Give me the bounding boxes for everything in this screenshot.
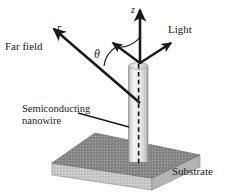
theta-angle-label: θ xyxy=(94,48,100,60)
semiconducting-nanowire-label: Semiconducting nanowire xyxy=(22,103,90,127)
r-vector-label: r xyxy=(57,21,61,33)
vector-group xyxy=(54,10,171,103)
substrate-label: Substrate xyxy=(172,165,213,177)
theta-angle-arc-tail xyxy=(104,47,116,66)
light-label: Light xyxy=(168,23,192,35)
far-field-r-vector-arrow xyxy=(54,29,140,103)
far-field-label: Far field xyxy=(5,40,43,52)
light-vector-arrow xyxy=(140,43,171,63)
substrate-slab xyxy=(52,133,200,190)
z-axis-label: z xyxy=(131,4,135,16)
theta-angle-arc xyxy=(116,37,140,47)
semiconducting-nanowire xyxy=(129,63,149,167)
